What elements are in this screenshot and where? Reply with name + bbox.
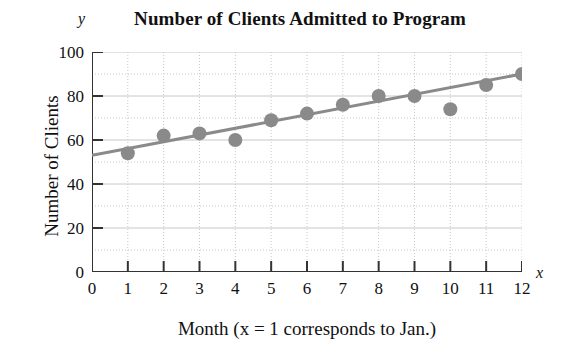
x-axis-tick-label: 10 (432, 280, 468, 297)
y-axis-tick-labels: 020406080100 (38, 52, 84, 272)
x-axis-tick-label: 6 (289, 280, 325, 297)
y-axis-tick-label: 40 (44, 176, 84, 193)
data-point (157, 129, 171, 143)
data-point (372, 89, 386, 103)
x-axis-tick-label: 8 (361, 280, 397, 297)
chart-figure: Number of Clients Admitted to Program y … (0, 0, 564, 357)
x-axis-tick-label: 5 (253, 280, 289, 297)
data-point (121, 146, 135, 160)
plot-area (92, 52, 522, 272)
data-point (193, 126, 207, 140)
data-point (408, 89, 422, 103)
x-axis-tick-label: 11 (468, 280, 504, 297)
x-axis-tick-label: 0 (74, 280, 110, 297)
data-point (479, 78, 493, 92)
x-axis-tick-label: 9 (397, 280, 433, 297)
y-axis-tick-label: 80 (44, 88, 84, 105)
data-point (443, 102, 457, 116)
data-point (228, 133, 242, 147)
y-axis-symbol: y (78, 10, 85, 28)
data-point (264, 113, 278, 127)
x-axis-tick-label: 2 (146, 280, 182, 297)
scatter-plot-svg (92, 52, 522, 272)
data-point (515, 67, 522, 81)
x-axis-tick-labels: 0123456789101112 (92, 280, 522, 304)
y-axis-tick-label: 20 (44, 220, 84, 237)
x-axis-title: Month (x = 1 corresponds to Jan.) (92, 318, 522, 340)
x-axis-tick-label: 4 (217, 280, 253, 297)
x-axis-tick-label: 3 (182, 280, 218, 297)
data-points (121, 67, 522, 160)
y-axis-tick-label: 100 (44, 44, 84, 61)
data-point (300, 107, 314, 121)
chart-title: Number of Clients Admitted to Program (100, 8, 500, 30)
x-axis-tick-label: 12 (504, 280, 540, 297)
x-axis-tick-label: 1 (110, 280, 146, 297)
y-axis-tick-label: 0 (44, 264, 84, 281)
y-axis-tick-label: 60 (44, 132, 84, 149)
data-point (336, 98, 350, 112)
x-axis-tick-label: 7 (325, 280, 361, 297)
